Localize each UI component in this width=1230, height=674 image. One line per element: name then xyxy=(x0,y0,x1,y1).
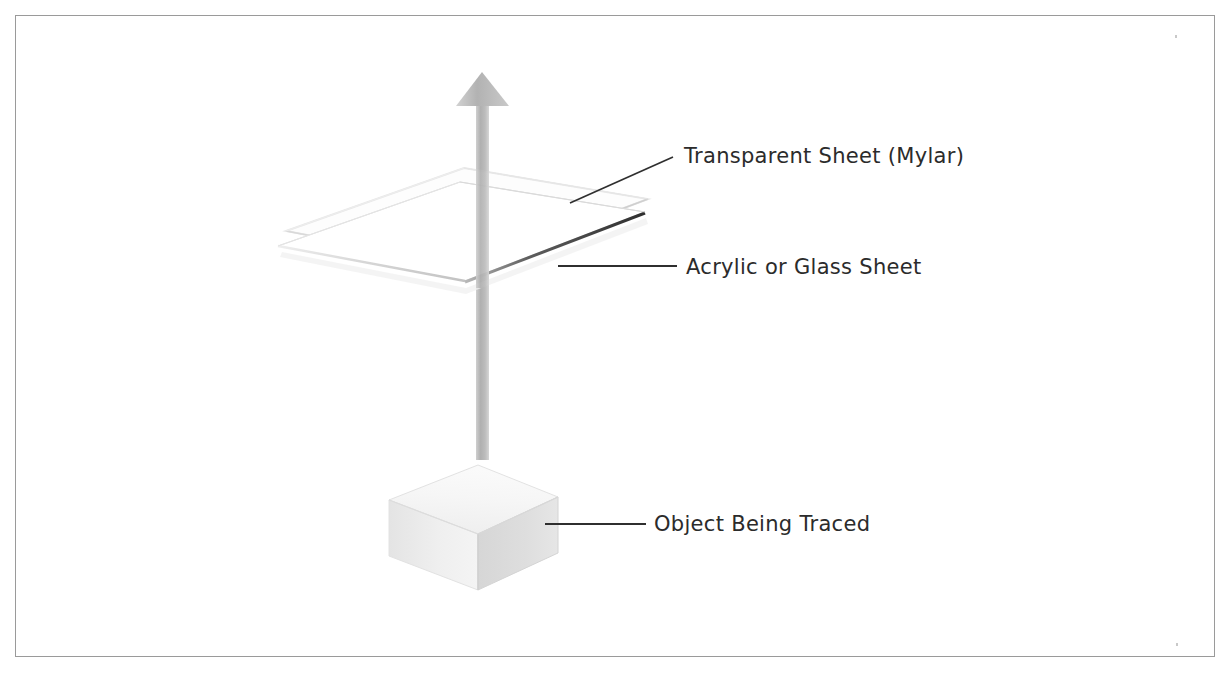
label-transparent-sheet: Transparent Sheet (Mylar) xyxy=(684,144,964,168)
label-acrylic-glass-sheet: Acrylic or Glass Sheet xyxy=(686,255,922,279)
illustration-scene xyxy=(0,0,1230,674)
scan-artifact-bottom-right xyxy=(1176,643,1178,646)
figure-canvas: Transparent Sheet (Mylar) Acrylic or Gla… xyxy=(0,0,1230,674)
object-being-traced-cube xyxy=(389,465,558,590)
arrow-shaft-overlap xyxy=(476,168,489,288)
label-object-being-traced: Object Being Traced xyxy=(654,512,870,536)
scan-artifact-top-right xyxy=(1175,35,1177,38)
